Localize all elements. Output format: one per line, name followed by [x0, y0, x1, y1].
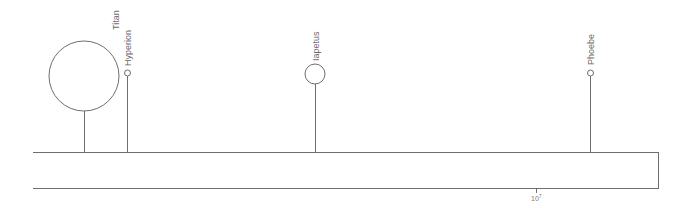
iapetus-label: Iapetus — [311, 31, 321, 61]
moon-phoebe: Phoebe — [586, 34, 596, 152]
axis-tick-1e7: 107 — [531, 188, 542, 202]
hyperion-label: Hyperion — [123, 30, 133, 66]
moon-hyperion: Hyperion — [123, 30, 133, 152]
axis-tick-label: 107 — [531, 193, 542, 202]
moon-iapetus: Iapetus — [305, 31, 325, 152]
phoebe-circle-icon — [588, 70, 594, 76]
titan-label: Titan — [111, 10, 121, 30]
iapetus-circle-icon — [305, 64, 325, 84]
saturn-moons-diagram: 107 Titan Hyperion Iapetus Phoebe — [0, 0, 691, 216]
titan-circle-icon — [49, 41, 119, 111]
moon-titan: Titan — [49, 10, 121, 152]
scale-bar — [33, 152, 659, 189]
phoebe-label: Phoebe — [586, 34, 596, 65]
hyperion-circle-icon — [125, 70, 131, 76]
